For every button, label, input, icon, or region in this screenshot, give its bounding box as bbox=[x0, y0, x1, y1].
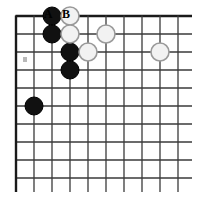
board-smudge-mark bbox=[23, 57, 27, 62]
black-stone-b6[interactable] bbox=[25, 97, 43, 115]
black-stone-d4[interactable] bbox=[61, 61, 79, 79]
go-board-diagram: A B bbox=[0, 0, 197, 212]
white-stone-e3[interactable] bbox=[79, 43, 97, 61]
board-marks bbox=[23, 57, 27, 62]
white-stone-i3[interactable] bbox=[151, 43, 169, 61]
black-stone-d3[interactable] bbox=[61, 43, 79, 61]
stones-layer bbox=[25, 7, 169, 115]
point-label-b: B bbox=[59, 8, 73, 20]
goban-grid bbox=[0, 0, 197, 212]
white-stone-d2[interactable] bbox=[61, 25, 79, 43]
black-stone-c2[interactable] bbox=[43, 25, 61, 43]
white-stone-f2[interactable] bbox=[97, 25, 115, 43]
point-label-a: A bbox=[41, 8, 55, 20]
